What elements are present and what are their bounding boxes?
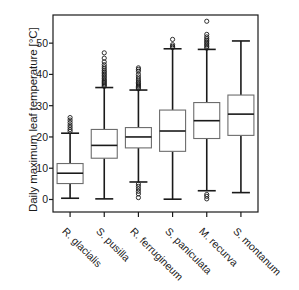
box-iqr [228, 95, 254, 135]
boxplot-figure: Daily maximum leaf temperature [°C] 0102… [0, 0, 299, 290]
plot-canvas [0, 0, 299, 290]
outlier-point [102, 51, 106, 55]
outlier-point [205, 19, 209, 23]
plot-frame [53, 15, 258, 212]
box-iqr [91, 129, 117, 158]
outlier-point [170, 37, 174, 41]
